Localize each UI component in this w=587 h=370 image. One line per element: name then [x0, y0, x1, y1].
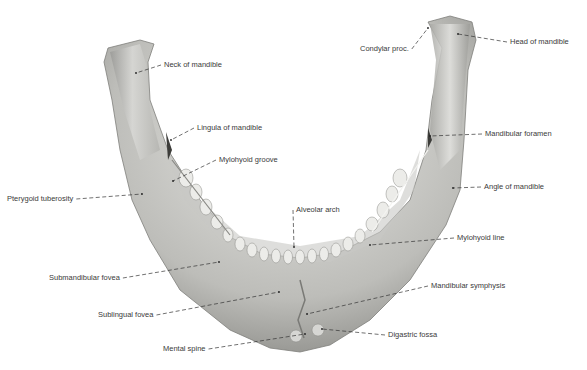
label-sublingual: Sublingual fovea — [98, 311, 153, 319]
label-angle: Angle of mandible — [484, 183, 544, 191]
label-pterygoid: Pterygoid tuberosity — [7, 195, 73, 203]
label-neck: Neck of mandible — [164, 61, 222, 69]
label-head: Head of mandible — [510, 38, 569, 46]
label-digastric: Digastric fossa — [388, 331, 437, 339]
mandible-diagram: Neck of mandibleCondylar proc.Head of ma… — [0, 0, 587, 370]
mandible-body — [104, 16, 476, 352]
label-submandibular: Submandibular fovea — [49, 274, 120, 282]
label-mylohyoid-groove: Mylohyoid groove — [219, 156, 278, 164]
label-alveolar: Alveolar arch — [296, 206, 340, 214]
leader-line-condylar — [412, 28, 428, 49]
label-lingula: Lingula of mandible — [197, 124, 262, 132]
leader-line-alveolar — [293, 210, 294, 247]
label-mandibular-foramen: Mandibular foramen — [485, 130, 552, 138]
leader-line-lingula — [171, 128, 194, 140]
label-condylar: Condylar proc. — [360, 45, 409, 53]
label-mylohyoid-line: Mylohyoid line — [457, 234, 505, 242]
label-mental-spine: Mental spine — [163, 345, 206, 353]
label-mandibular-symphysis: Mandibular symphysis — [431, 282, 505, 290]
